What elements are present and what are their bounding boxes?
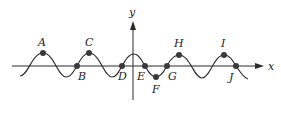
svg-text:H: H [173, 37, 184, 50]
point-I: I [220, 37, 227, 58]
point-F: F [151, 74, 160, 96]
y-axis-label: y [128, 6, 136, 19]
svg-text:E: E [136, 70, 145, 83]
svg-text:I: I [220, 37, 226, 50]
svg-text:C: C [85, 36, 94, 49]
y-axis-arrow-icon [130, 21, 136, 30]
svg-text:F: F [151, 83, 160, 96]
svg-text:J: J [227, 71, 234, 84]
point-C: C [85, 36, 94, 56]
sinusoid-diagram: x y A B C D E F G H I J [0, 0, 281, 133]
svg-text:G: G [168, 70, 177, 83]
svg-text:B: B [77, 70, 86, 83]
x-axis-label: x [268, 60, 275, 73]
svg-text:D: D [117, 70, 127, 83]
svg-text:A: A [37, 36, 46, 49]
point-H: H [173, 37, 184, 58]
x-axis-arrow-icon [255, 63, 264, 69]
point-A: A [37, 36, 46, 56]
